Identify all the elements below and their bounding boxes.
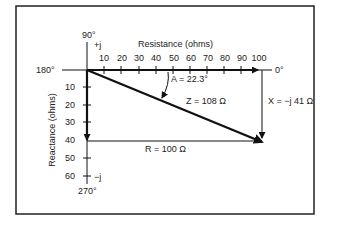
resistance-tick-80: 80 — [220, 53, 230, 63]
resistance-tick-20: 20 — [117, 53, 127, 63]
resistance-tick-60: 60 — [186, 53, 196, 63]
impedance-value-label: Z = 108 Ω — [186, 96, 226, 106]
angle-value-label: A = 22.3° — [171, 74, 208, 84]
angle-90-label: 90° — [82, 30, 96, 40]
reactance-tick-20: 20 — [65, 100, 75, 110]
resistance-tick-90: 90 — [237, 53, 247, 63]
resistance-tick-100: 100 — [251, 53, 266, 63]
angle-arc — [162, 72, 168, 98]
resistance-tick-30: 30 — [134, 53, 144, 63]
angle-0-label: 0° — [275, 65, 284, 75]
resistance-value-label: R = 100 Ω — [145, 144, 186, 154]
reactance-axis-label: Reactance (ohms) — [47, 93, 57, 167]
reactance-tick-10: 10 — [65, 82, 75, 92]
resistance-tick-70: 70 — [203, 53, 213, 63]
reactance-tick-50: 50 — [65, 153, 75, 163]
resistance-axis-label: Resistance (ohms) — [138, 39, 213, 49]
reactance-value-label: X = −j 41 Ω — [268, 96, 314, 106]
reactance-tick-60: 60 — [65, 171, 75, 181]
reactance-tick-40: 40 — [65, 135, 75, 145]
minus-j-label: −j — [94, 172, 101, 182]
resistance-tick-10: 10 — [99, 53, 109, 63]
diagram-frame — [16, 6, 314, 214]
resistance-tick-50: 50 — [169, 53, 179, 63]
plus-j-label: +j — [94, 40, 101, 50]
resistance-tick-40: 40 — [151, 53, 161, 63]
angle-180-label: 180° — [36, 65, 55, 75]
angle-270-label: 270° — [78, 186, 97, 196]
impedance-diagram: 10 20 30 40 50 60 70 80 90 100 Resistanc… — [0, 0, 341, 229]
reactance-tick-30: 30 — [65, 117, 75, 127]
